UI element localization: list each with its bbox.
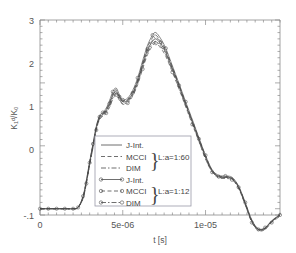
y-tick-label-1: 1: [29, 102, 34, 112]
legend-label-jint-12: J-Int.: [126, 176, 144, 185]
x-tick-label-1e-05: 1e-05: [194, 220, 217, 230]
legend-group-label-60: L:a=1:60: [158, 153, 190, 162]
x-tick-label-5e-06: 5e-06: [111, 220, 134, 230]
y-tick-label-2: 2: [29, 59, 34, 69]
x-axis-title: t [s]: [153, 235, 167, 245]
chart-figure: 3 2 1 0 -.1 0 5e-06 1e-05 t [s] K₁ᵈ/K₀ J…: [0, 0, 296, 253]
y-tick-label-neg01: -.1: [23, 211, 34, 221]
chart-svg: 3 2 1 0 -.1 0 5e-06 1e-05 t [s] K₁ᵈ/K₀ J…: [0, 0, 296, 253]
y-tick-label-3: 3: [29, 16, 34, 26]
x-tick-label-0: 0: [37, 220, 42, 230]
y-axis-title: K₁ᵈ/K₀: [9, 106, 19, 130]
y-tick-label-0: 0: [29, 145, 34, 155]
legend-label-dim-12: DIM: [126, 199, 141, 208]
legend-label-mcci-60: MCCI: [126, 153, 146, 162]
legend-group-label-12: L:a=1:12: [158, 187, 190, 196]
legend-label-jint-60: J-Int.: [126, 141, 144, 150]
legend-label-mcci-12: MCCI: [126, 187, 146, 196]
legend: J-Int. MCCI DIM J-Int. MCCI DIM } } L:a=…: [95, 136, 191, 208]
legend-label-dim-60: DIM: [126, 164, 141, 173]
